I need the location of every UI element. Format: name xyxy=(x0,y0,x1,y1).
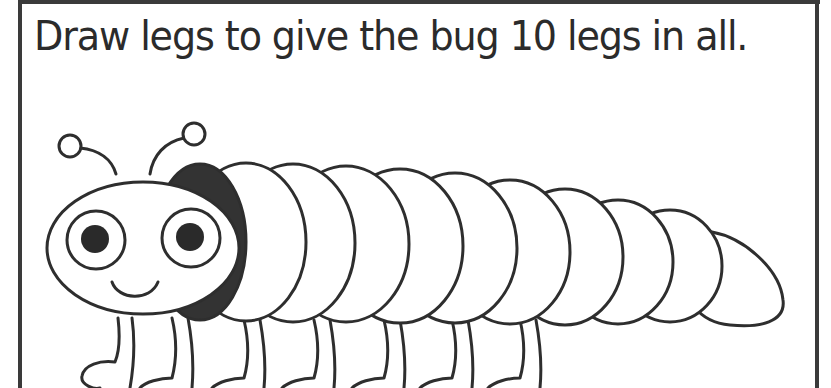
body-segments xyxy=(154,163,783,326)
leg xyxy=(282,320,335,388)
leg xyxy=(420,320,473,388)
left-pupil xyxy=(81,225,109,253)
leg xyxy=(352,320,405,388)
head xyxy=(47,182,239,314)
antenna-left-stalk xyxy=(80,148,116,174)
right-pupil xyxy=(176,223,204,251)
leg xyxy=(488,320,541,388)
legs xyxy=(82,318,541,388)
bug-illustration[interactable] xyxy=(0,0,831,388)
leg xyxy=(212,320,265,388)
antennae xyxy=(59,123,205,174)
antenna-left-tip xyxy=(59,135,81,157)
leg xyxy=(82,318,134,388)
antenna-right-tip xyxy=(183,123,205,145)
worksheet: Draw legs to give the bug 10 legs in all… xyxy=(0,0,831,388)
antenna-right-stalk xyxy=(150,138,184,174)
leg xyxy=(140,318,193,388)
